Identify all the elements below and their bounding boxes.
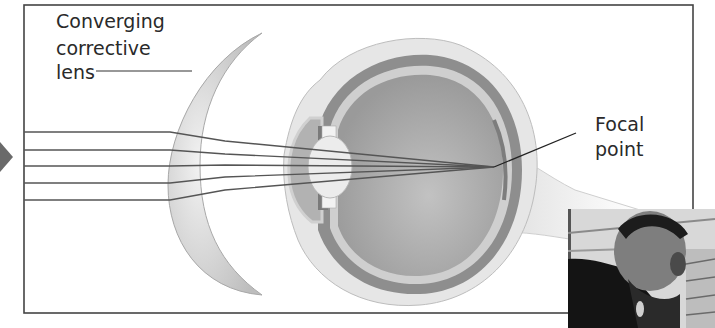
lens-label-line3: lens [56,61,95,83]
focal-label-line2: point [595,138,643,160]
corrective-lens[interactable] [168,33,262,295]
lens-label-line1: Converging [56,10,165,32]
diagram-canvas: Converging corrective lens Focal point [0,0,715,328]
focal-label-line1: Focal [595,113,644,135]
lens-label-line2: corrective [56,37,151,59]
eye-crystalline-lens [308,136,352,198]
webcam-feed [568,209,715,328]
webcam-overlay[interactable] [568,209,715,328]
play-arrow-icon[interactable] [0,142,13,172]
eye-vitreous [338,75,503,276]
